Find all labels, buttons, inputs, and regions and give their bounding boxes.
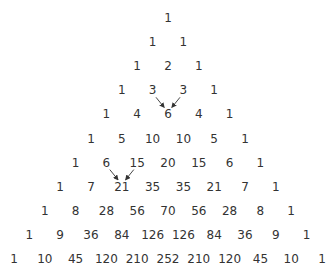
arrow-icon xyxy=(126,170,134,180)
arrow-icon xyxy=(172,97,180,107)
arrow-icon xyxy=(156,97,164,107)
sum-arrows xyxy=(0,0,335,277)
arrow-icon xyxy=(110,170,118,180)
